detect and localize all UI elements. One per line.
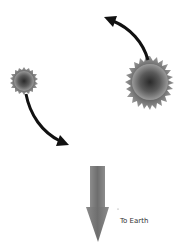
large-star-orbit-arrow-icon <box>104 16 148 60</box>
binary-star-diagram <box>0 0 186 249</box>
dot-mark <box>117 208 118 209</box>
to-earth-arrow-icon <box>86 166 109 242</box>
small-star-orbit-arrow-icon <box>26 94 69 146</box>
large-star-icon <box>125 56 174 110</box>
to-earth-label: To Earth <box>120 217 148 225</box>
small-star-icon <box>10 67 38 95</box>
